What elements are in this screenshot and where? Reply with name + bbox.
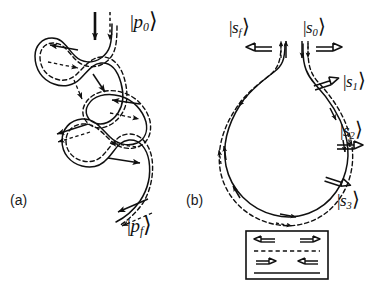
ket-label-p0: |p0⟩: [130, 11, 157, 34]
ket-sf-symbol: s: [232, 18, 239, 37]
panel-b-label: (b): [186, 193, 203, 207]
panel-a-entry-arrows: [95, 12, 110, 40]
ket-s2-angle: ⟩: [355, 119, 363, 140]
panel-b-tick-right-mid: [343, 140, 345, 152]
figure-root: (a) (b) |p0⟩ |pf⟩ |sf⟩ |s0⟩ |s1⟩ |s2⟩ |s…: [0, 0, 391, 285]
panel-a-dashed-path: [40, 26, 153, 226]
s0-hollow-arrow: [316, 43, 342, 51]
ket-s0-symbol: s: [306, 18, 313, 37]
ket-label-pf: |pf⟩: [127, 215, 152, 238]
panel-b-dashed-loop: [219, 44, 352, 226]
ket-s3-symbol: s: [340, 191, 347, 210]
ket-label-s3: |s3⟩: [337, 190, 359, 211]
ket-s0-angle: ⟩: [318, 16, 326, 37]
ket-label-s1: |s1⟩: [343, 71, 365, 92]
ket-label-s0: |s0⟩: [303, 17, 325, 38]
ket-sf-angle: ⟩: [242, 16, 250, 37]
panel-a-solid-path: [35, 24, 150, 222]
panel-a-loop1-dashed-arrow: [48, 62, 78, 68]
ket-p0-symbol: p: [133, 11, 143, 32]
panel-a-trajectory: [35, 12, 153, 226]
ket-label-s2: |s2⟩: [340, 120, 362, 141]
ket-s1-angle: ⟩: [358, 70, 366, 91]
ket-s3-angle: ⟩: [352, 189, 360, 210]
ket-s1-symbol: s: [346, 72, 353, 91]
ket-pf-angle: ⟩: [143, 213, 152, 237]
ket-pf-symbol: p: [130, 215, 140, 236]
panel-a-loop3-solid-arrow: [108, 158, 140, 163]
legend-box: [246, 231, 328, 279]
ket-label-sf: |sf⟩: [229, 17, 249, 38]
ket-p0-angle: ⟩: [149, 9, 158, 33]
s2-hollow-arrow: [337, 141, 363, 149]
s1-hollow-arrow: [313, 74, 340, 90]
ket-s2-symbol: s: [343, 121, 350, 140]
legend-border: [246, 231, 328, 279]
panel-a-seg1-solid-arrow: [93, 74, 105, 92]
panel-a-loop1-solid-arrow: [50, 45, 78, 50]
sf-hollow-arrow: [246, 43, 272, 51]
panel-b-tick-left-upper-dashed: [239, 96, 247, 106]
figure-canvas: [0, 0, 391, 285]
panel-a-seg1-dashed-arrow: [74, 80, 82, 99]
panel-a-label: (a): [10, 193, 27, 207]
s3-hollow-arrow: [324, 173, 351, 189]
panel-a-seg2-solid-arrow: [57, 124, 88, 134]
panel-b-solid-loop: [225, 44, 348, 217]
